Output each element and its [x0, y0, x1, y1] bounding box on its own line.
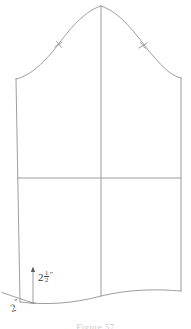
height-dimension-fraction: 1 2 — [44, 270, 49, 284]
pattern-drawing — [0, 0, 191, 329]
height-dimension-denominator: 2 — [44, 276, 49, 284]
height-dimension-numerator: 1 — [44, 270, 49, 277]
height-dimension-unit-mark: ” — [50, 271, 53, 278]
pattern-diagram-canvas: 2 1 2 ” 2” Figure 57 — [0, 0, 191, 329]
height-dimension-whole: 2 — [38, 272, 44, 283]
height-dimension-arrowhead-icon — [31, 267, 35, 273]
figure-caption: Figure 57 — [0, 322, 191, 329]
hem-wave — [20, 290, 181, 304]
left-cap-notch-icon — [55, 42, 62, 48]
sleeve-cap-curve — [16, 6, 181, 79]
height-dimension-label: 2 1 2 ” — [38, 270, 52, 284]
left-side-seam — [16, 79, 20, 302]
